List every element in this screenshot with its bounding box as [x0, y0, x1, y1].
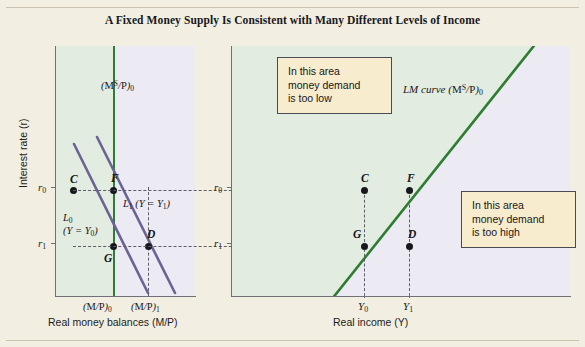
right-point-C-label: C: [361, 172, 369, 184]
left-ticklabel-r0: r0: [38, 181, 46, 193]
right-ticklabel-r0: r0: [214, 181, 222, 193]
callout-demand-too-low: In this area money demand is too low: [277, 57, 392, 114]
right-point-G: [361, 243, 368, 250]
right-tick-y1: [409, 293, 410, 298]
right-tick-y0: [364, 293, 365, 298]
left-y-axis: [55, 46, 56, 297]
right-point-F-label: F: [407, 172, 415, 184]
right-point-C: [361, 187, 368, 194]
right-tick-r0: [227, 187, 232, 188]
money-supply-label: (MS/P)0: [101, 80, 134, 93]
right-point-D: [406, 243, 413, 250]
left-x-axis: [55, 296, 196, 297]
l0-curve-label: L0(Y = Y0): [63, 212, 98, 238]
right-point-G-label: G: [353, 228, 361, 240]
right-point-D-label: D: [408, 228, 416, 240]
right-xticklabel-y1: Y1: [403, 300, 413, 312]
left-point-G-label: G: [104, 252, 112, 264]
left-ticklabel-r1: r1: [38, 237, 46, 249]
right-point-F: [406, 187, 413, 194]
right-x-axis-label: Real income (Y): [333, 316, 408, 328]
right-ticklabel-r1: r1: [214, 237, 222, 249]
figure-container: A Fixed Money Supply Is Consistent with …: [0, 0, 585, 347]
left-x-axis-label: Real money balances (M/P): [48, 316, 178, 328]
right-panel: r0 r1 Y0 Y1 Real income (Y) LM curve (MS…: [215, 0, 585, 347]
lm-curve-label: LM curve (MS/P)0: [403, 83, 483, 97]
left-y-axis-label: Interest rate (r): [17, 119, 29, 188]
right-x-axis: [231, 296, 571, 297]
left-point-D-label: D: [147, 228, 155, 240]
right-xticklabel-y0: Y0: [358, 300, 368, 312]
left-panel: Interest rate (r) r0 r1 (MS/P)0: [0, 0, 215, 347]
l1-curve-label: L1 (Y = Y1): [123, 198, 170, 211]
right-tick-r1: [227, 243, 232, 244]
callout-demand-too-high: In this area money demand is too high: [461, 191, 576, 248]
left-xticklabel-m1: (M/P)1: [131, 301, 160, 314]
left-tick-r0: [51, 187, 56, 188]
right-y-axis: [231, 46, 232, 297]
left-point-F-label: F: [111, 172, 119, 184]
left-tick-r1: [51, 243, 56, 244]
left-xticklabel-m0: (M/P)0: [83, 301, 112, 314]
left-point-C-label: C: [70, 173, 78, 185]
